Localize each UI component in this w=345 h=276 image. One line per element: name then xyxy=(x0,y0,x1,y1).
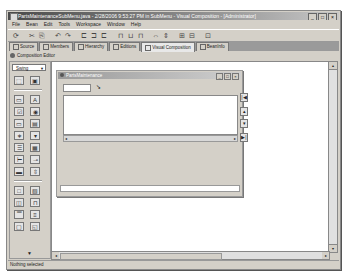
jscrollbar-icon[interactable]: ⇳ xyxy=(30,167,40,176)
beaninfo-icon xyxy=(200,44,206,50)
redo-icon[interactable]: ↷ xyxy=(64,32,72,40)
jpasswordfield-icon[interactable]: ∗ xyxy=(14,131,24,140)
jinternalframe-icon[interactable]: ◱ xyxy=(30,222,40,231)
frame-icon xyxy=(60,73,64,77)
match-width-icon[interactable]: ⇕ xyxy=(162,32,170,40)
tab-visual-composition[interactable]: Visual Composition xyxy=(141,42,194,52)
previous-record-button[interactable]: ▴ xyxy=(240,107,248,116)
jtable-icon[interactable]: ▦ xyxy=(30,143,40,152)
title-bar[interactable]: PartsMaintenanceSubMenu.java - 2/28/2006… xyxy=(8,12,339,20)
jradiobutton-icon[interactable]: ◉ xyxy=(30,107,40,116)
jtree-icon[interactable]: ⊢ xyxy=(14,155,24,164)
tab-hierarchy[interactable]: Hierarchy xyxy=(74,42,108,51)
choose-bean-icon[interactable]: ▣ xyxy=(30,76,40,85)
list-horizontal-scrollbar[interactable]: ◂ ▸ xyxy=(63,135,238,142)
members-icon xyxy=(43,44,49,50)
tab-beaninfo[interactable]: BeanInfo xyxy=(196,42,229,51)
next-record-button[interactable]: ▾ xyxy=(240,119,248,128)
frame-close-button[interactable]: × xyxy=(232,73,239,80)
match-height-icon[interactable]: ⊞ xyxy=(178,32,186,40)
minimize-button[interactable]: _ xyxy=(308,13,317,20)
align-bottom-icon[interactable]: ⊓ xyxy=(136,32,144,40)
hierarchy-icon xyxy=(78,44,84,50)
parts-maintenance-frame[interactable]: PartsMaintenance _ □ × ➘ ◂ ▸ |◀ ▴ ▾ ▶| xyxy=(56,70,243,197)
jslider-icon[interactable]: ⊸ xyxy=(30,155,40,164)
jlist-icon[interactable]: ☰ xyxy=(14,143,24,152)
jprogressbar-icon[interactable]: ▬ xyxy=(14,167,24,176)
jbutton-icon[interactable]: ▭ xyxy=(14,95,24,104)
align-top-icon[interactable]: ⊓ xyxy=(116,32,124,40)
align-center-icon[interactable]: ⊐ xyxy=(90,32,98,40)
menu-help[interactable]: Help xyxy=(131,21,141,28)
search-field[interactable] xyxy=(63,84,91,92)
list-scroll-left-icon[interactable]: ◂ xyxy=(65,136,67,141)
jcheckbox-icon[interactable]: ☑ xyxy=(14,107,24,116)
palette-scroll-down-icon[interactable]: ▼ xyxy=(27,250,32,256)
tab-editions[interactable]: Editions xyxy=(109,42,140,51)
tab-source[interactable]: Source xyxy=(9,42,38,51)
source-icon xyxy=(13,44,19,50)
menu-workspace[interactable]: Workspace xyxy=(76,21,101,28)
menu-file[interactable]: File xyxy=(12,21,20,28)
app-icon xyxy=(10,13,18,20)
frame-minimize-button[interactable]: _ xyxy=(216,73,223,80)
selection-tool-icon[interactable]: ⬚ xyxy=(14,76,24,85)
window-title: PartsMaintenanceSubMenu.java - 2/28/2006… xyxy=(18,13,256,19)
scroll-down-icon[interactable]: ▾ xyxy=(329,244,337,252)
distribute-icon[interactable]: ⇔ xyxy=(152,32,160,40)
menu-window[interactable]: Window xyxy=(107,21,125,28)
properties-icon[interactable]: ⊟ xyxy=(188,32,196,40)
scroll-up-icon[interactable]: ▴ xyxy=(329,62,337,70)
jlabel-icon[interactable]: A xyxy=(30,95,40,104)
menu-bar: File Bean Edit Tools Workspace Window He… xyxy=(8,21,339,28)
jpanel-icon[interactable]: □ xyxy=(14,186,24,195)
close-button[interactable]: × xyxy=(328,13,337,20)
canvas-horizontal-scrollbar[interactable]: ◂ ▸ xyxy=(51,251,330,260)
jtabbedpane-icon[interactable]: ⊓ xyxy=(30,198,40,207)
scroll-left-icon[interactable]: ◂ xyxy=(52,252,59,259)
jframe-icon[interactable]: ▢ xyxy=(14,222,24,231)
status-bar: Nothing selected xyxy=(8,260,339,268)
jtextfield-icon[interactable]: ▭ xyxy=(14,119,24,128)
parts-list[interactable] xyxy=(63,95,238,135)
connections-icon[interactable]: ⊡ xyxy=(204,32,212,40)
mouse-cursor-icon: ➘ xyxy=(96,83,101,90)
editions-icon xyxy=(113,44,119,50)
editor-tabs: Source Members Hierarchy Editions Visual… xyxy=(9,42,339,51)
cut-icon[interactable]: ✂ xyxy=(28,32,36,40)
horizontal-scroll-thumb[interactable] xyxy=(60,253,222,260)
first-record-button[interactable]: |◀ xyxy=(240,93,248,102)
jtoolbar-icon[interactable]: ▔ xyxy=(14,210,24,219)
jcombobox-icon[interactable]: ▾ xyxy=(30,131,40,140)
menu-tools[interactable]: Tools xyxy=(58,21,70,28)
jscrollpane-icon[interactable]: ▧ xyxy=(30,186,40,195)
align-left-icon[interactable]: ⊏ xyxy=(80,32,88,40)
jmenubar-icon[interactable]: ≡ xyxy=(30,210,40,219)
jtextarea-icon[interactable]: ▤ xyxy=(30,119,40,128)
frame-title-bar[interactable]: PartsMaintenance _ □ × xyxy=(58,72,241,79)
tab-members[interactable]: Members xyxy=(39,42,73,51)
bean-palette: Swing ▼ ⬚ ▣ ▭ A ☑ ◉ ▭ ▤ ∗ ▾ ☰ ▦ ⊢ ⊸ ▬ ⇳ … xyxy=(9,61,51,259)
canvas-vertical-scrollbar[interactable]: ▴ ▾ xyxy=(328,61,338,253)
menu-bean[interactable]: Bean xyxy=(26,21,38,28)
last-record-button[interactable]: ▶| xyxy=(240,133,248,142)
run-icon[interactable]: ⟳ xyxy=(12,32,20,40)
editor-header: Composition Editor xyxy=(8,52,339,60)
frame-title: PartsMaintenance xyxy=(66,73,102,78)
detail-text-field[interactable] xyxy=(60,185,240,192)
menu-edit[interactable]: Edit xyxy=(44,21,53,28)
align-middle-icon[interactable]: ⊔ xyxy=(126,32,134,40)
maximize-button[interactable]: □ xyxy=(318,13,327,20)
align-right-icon[interactable]: ⊏ xyxy=(100,32,108,40)
chevron-down-icon: ▼ xyxy=(40,65,44,72)
visual-composition-icon xyxy=(145,45,151,51)
toolbar: ⟳ ✂ ⎘ ↶ ↷ ⊏ ⊐ ⊏ ⊓ ⊔ ⊓ ⇔ ⇕ ⊞ ⊟ ⊡ xyxy=(8,29,339,42)
jsplitpane-icon[interactable]: ◫ xyxy=(14,198,24,207)
frame-maximize-button[interactable]: □ xyxy=(224,73,231,80)
undo-icon[interactable]: ↶ xyxy=(54,32,62,40)
scroll-right-icon[interactable]: ▸ xyxy=(322,252,329,259)
palette-category-select[interactable]: Swing ▼ xyxy=(12,64,46,71)
copy-icon[interactable]: ⎘ xyxy=(38,32,46,40)
list-scroll-right-icon[interactable]: ▸ xyxy=(234,136,236,141)
frame-controls: _ □ × xyxy=(216,73,239,80)
